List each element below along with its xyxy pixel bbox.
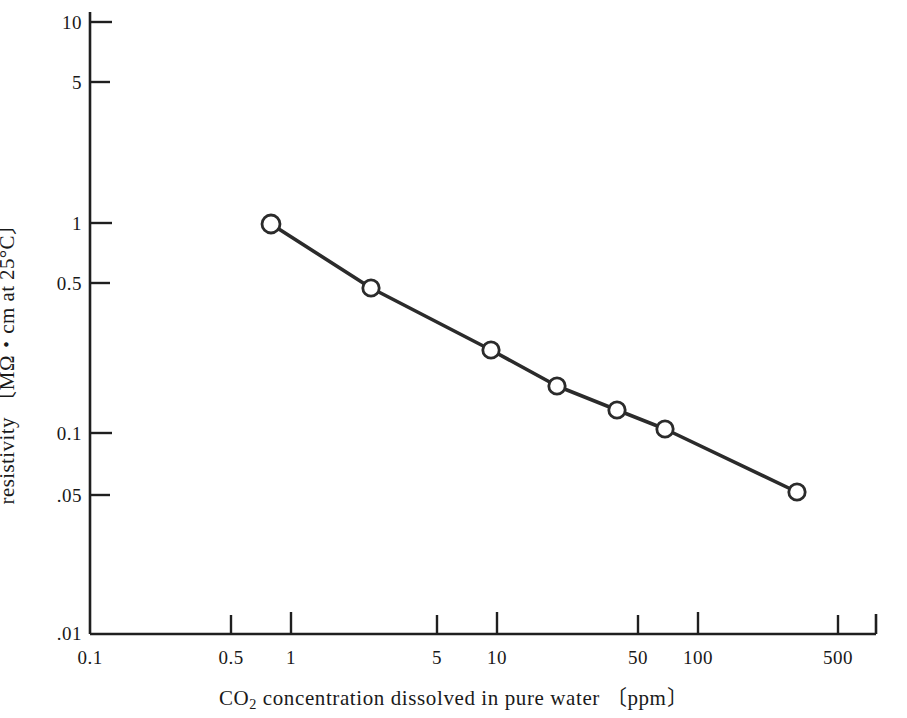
y-axis-title: resistivity 〔MΩ・cm at 25°C〕 [0,0,34,718]
x-axis-title-pre: CO [219,686,249,710]
y-axis-ticks [90,22,112,495]
y-axis-title-text: resistivity 〔MΩ・cm at 25°C〕 [0,214,20,505]
x-tick-label-10: 10 [487,648,507,667]
x-tick-label-100: 100 [683,648,713,667]
x-axis-ticks [231,612,838,634]
x-tick-label-0-1: 0.1 [77,648,102,667]
chart-figure: 10 5 1 0.5 0.1 .05 .01 0.1 0.5 1 5 10 50… [0,0,907,718]
x-tick-label-50: 50 [628,648,648,667]
x-tick-label-0-5: 0.5 [218,648,243,667]
x-tick-label-5: 5 [432,648,442,667]
x-tick-label-1: 1 [286,648,296,667]
chart-plot-area [0,0,907,718]
x-axis-title: CO2 concentration dissolved in pure wate… [0,681,907,713]
x-tick-label-500: 500 [823,648,853,667]
x-axis-title-subscript: 2 [249,696,257,712]
x-axis-title-post: concentration dissolved in pure water 〔p… [257,686,688,710]
axis-lines [90,12,876,634]
data-series-line [271,224,797,492]
